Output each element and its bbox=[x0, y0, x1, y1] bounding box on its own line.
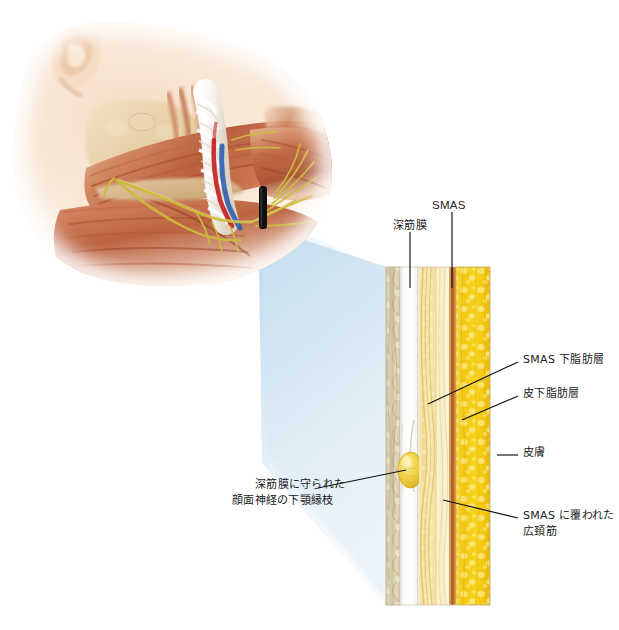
layer-dermis bbox=[449, 267, 456, 605]
label-deep-fascia: 深筋膜 bbox=[393, 218, 427, 233]
label-nerve-line2: 顔面神経の下顎縁枝 bbox=[232, 493, 317, 508]
label-sub-smas-fat: SMAS 下脂肪層 bbox=[523, 352, 604, 367]
illustration-stage: SMAS 深筋膜 SMAS 下脂肪層 皮下脂肪層 皮膚 SMAS に覆われた 広… bbox=[0, 0, 619, 630]
label-platysma-line2: 広頚筋 bbox=[523, 524, 557, 539]
layer-smas-platysma bbox=[437, 267, 449, 605]
label-nerve-line1: 深筋膜に守られた bbox=[255, 477, 317, 492]
label-platysma-line1: SMAS に覆われた bbox=[523, 508, 614, 523]
magnification-cone bbox=[258, 205, 386, 605]
face-illustration bbox=[13, 22, 337, 290]
label-smas: SMAS bbox=[432, 198, 466, 213]
layer-subcutaneous-fat bbox=[456, 267, 490, 605]
section-marker-bar bbox=[259, 186, 267, 229]
label-subcutaneous-fat: 皮下脂肪層 bbox=[523, 386, 580, 401]
tissue-cross-section bbox=[386, 256, 490, 605]
layer-deep-muscle bbox=[386, 256, 400, 605]
label-skin: 皮膚 bbox=[523, 445, 546, 460]
layer-sub-smas-fat bbox=[419, 267, 437, 605]
